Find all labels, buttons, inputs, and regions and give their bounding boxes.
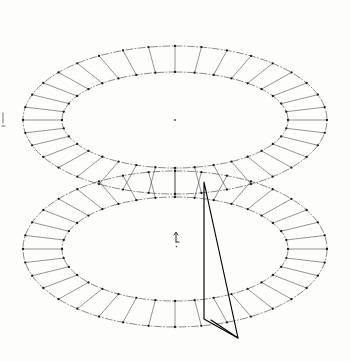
radial-spoke xyxy=(123,176,136,200)
node-dot-outer xyxy=(324,234,326,236)
node-dot-inner xyxy=(272,222,274,224)
radial-spoke xyxy=(77,189,102,209)
radial-spoke xyxy=(99,294,119,317)
node-dot-outer xyxy=(226,49,228,51)
node-dot-outer xyxy=(200,325,202,327)
node-dot-outer xyxy=(290,198,292,200)
node-dot-outer xyxy=(31,94,33,96)
node-dot-inner xyxy=(101,156,103,158)
node-dot-inner xyxy=(230,77,232,79)
radial-spoke xyxy=(273,275,307,288)
radial-spoke xyxy=(214,50,227,74)
radial-spoke xyxy=(281,267,318,276)
node-dot-outer xyxy=(200,192,202,194)
node-dot-outer xyxy=(76,188,78,190)
node-dot-outer xyxy=(317,275,319,277)
radial-spoke xyxy=(214,165,227,189)
radial-spoke xyxy=(77,63,102,83)
node-dot-outer xyxy=(272,308,274,310)
node-dot-outer xyxy=(324,132,326,134)
node-dot-inner xyxy=(260,88,262,90)
radial-spoke xyxy=(25,128,63,133)
node-dot-outer xyxy=(290,166,292,168)
radial-spoke xyxy=(214,176,227,200)
figure-root xyxy=(0,0,350,361)
upper-center-dot xyxy=(174,119,176,121)
radial-spoke xyxy=(281,95,318,104)
node-dot-inner xyxy=(68,266,70,268)
node-dot-outer xyxy=(31,221,33,223)
radial-spoke xyxy=(32,267,69,276)
node-dot-outer xyxy=(324,106,326,108)
node-dot-inner xyxy=(272,274,274,276)
node-dot-inner xyxy=(272,143,274,145)
reference-markers xyxy=(2,113,179,247)
radial-spoke xyxy=(32,136,69,145)
node-dot-outer xyxy=(24,261,26,263)
node-dot-inner xyxy=(246,288,248,290)
radial-spoke xyxy=(195,47,202,73)
node-dot-outer xyxy=(24,132,26,134)
node-dot-inner xyxy=(61,248,63,250)
radial-spoke xyxy=(273,83,307,96)
node-dot-inner xyxy=(260,214,262,216)
node-dot-outer xyxy=(317,221,319,223)
radial-spoke xyxy=(262,72,292,89)
radial-spoke xyxy=(32,95,69,104)
node-dot-inner xyxy=(68,135,70,137)
node-dot-inner xyxy=(117,160,119,162)
radial-spoke xyxy=(248,289,273,309)
node-dot-inner xyxy=(272,95,274,97)
node-dot-inner xyxy=(87,150,89,152)
node-dot-inner xyxy=(135,164,137,166)
node-dot-inner xyxy=(154,299,156,301)
node-dot-outer xyxy=(174,170,176,172)
radial-spoke xyxy=(123,50,136,74)
radial-spoke xyxy=(286,235,324,240)
node-dot-outer xyxy=(98,183,100,185)
node-dot-inner xyxy=(117,293,119,295)
node-dot-outer xyxy=(200,46,202,48)
node-dot-inner xyxy=(285,239,287,241)
node-dot-inner xyxy=(193,197,195,199)
node-dot-inner xyxy=(246,208,248,210)
node-dot-inner xyxy=(230,293,232,295)
node-dot-outer xyxy=(147,46,149,48)
radial-spoke xyxy=(273,210,307,223)
node-dot-outer xyxy=(317,144,319,146)
node-dot-outer xyxy=(147,171,149,173)
radial-spoke xyxy=(59,199,89,216)
node-dot-outer xyxy=(76,62,78,64)
node-dot-inner xyxy=(63,239,65,241)
inner-rim-path xyxy=(62,197,288,301)
node-dot-inner xyxy=(101,288,103,290)
node-dot-outer xyxy=(98,180,100,182)
node-dot-inner xyxy=(63,127,65,129)
radial-spoke xyxy=(232,56,252,79)
node-dot-outer xyxy=(57,198,59,200)
node-dot-outer xyxy=(174,45,176,47)
node-dot-inner xyxy=(213,297,215,299)
node-dot-inner xyxy=(280,230,282,232)
radial-spoke xyxy=(248,157,273,177)
node-dot-inner xyxy=(213,74,215,76)
radial-spoke xyxy=(195,300,202,326)
node-dot-outer xyxy=(200,171,202,173)
node-dot-outer xyxy=(42,82,44,84)
node-dot-inner xyxy=(87,214,89,216)
node-dot-outer xyxy=(226,175,228,177)
radial-spoke xyxy=(43,83,77,96)
node-dot-inner xyxy=(213,164,215,166)
node-dot-inner xyxy=(230,203,232,205)
node-dot-outer xyxy=(317,94,319,96)
node-dot-inner xyxy=(87,88,89,90)
node-dot-outer xyxy=(290,298,292,300)
node-dot-outer xyxy=(250,315,252,317)
radial-spoke xyxy=(248,189,273,209)
node-dot-inner xyxy=(117,77,119,79)
node-dot-outer xyxy=(250,55,252,57)
node-dot-inner xyxy=(285,127,287,129)
radial-spoke xyxy=(149,300,156,326)
node-dot-inner xyxy=(76,95,78,97)
node-dot-outer xyxy=(122,188,124,190)
